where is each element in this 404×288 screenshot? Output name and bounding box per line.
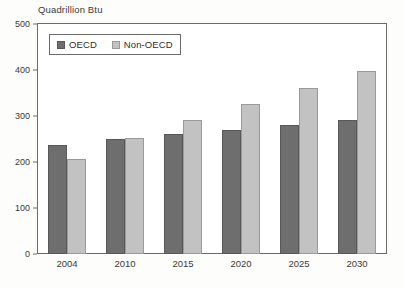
bar-non-oecd-2004 [67,159,86,254]
bar-non-oecd-2030 [357,71,376,254]
bar-oecd-2010 [106,139,125,254]
y-axis-tick-label: 100 [15,203,30,213]
bar-group [164,24,202,254]
y-axis-tick-label: 300 [15,111,30,121]
legend-label: OECD [69,39,97,50]
bars-layer [38,24,386,254]
bar-non-oecd-2010 [125,138,144,254]
bar-chart-figure: Quadrillion Btu 0100200300400500 2004201… [0,0,404,288]
bar-group [106,24,144,254]
bar-oecd-2030 [338,120,357,254]
x-axis-tick-label: 2020 [230,258,251,269]
x-axis-tick-label: 2025 [288,258,309,269]
bar-oecd-2025 [280,125,299,254]
legend-entry-non-oecd: Non-OECD [112,39,173,50]
bar-group [222,24,260,254]
x-axis-tick-label: 2010 [114,258,135,269]
y-axis: 0100200300400500 [0,23,37,254]
bar-oecd-2004 [48,145,67,254]
bar-group [338,24,376,254]
bar-non-oecd-2015 [183,120,202,254]
x-axis: 200420102015202020252030 [38,258,386,274]
bar-group [48,24,86,254]
y-axis-tick-label: 200 [15,157,30,167]
legend-entry-oecd: OECD [57,39,97,50]
y-axis-tick-label: 0 [25,249,30,259]
y-axis-tick-label: 500 [15,19,30,29]
bar-non-oecd-2020 [241,104,260,254]
chart-legend: OECDNon-OECD [49,34,181,55]
bar-group [280,24,318,254]
x-axis-tick-label: 2004 [56,258,77,269]
legend-label: Non-OECD [124,39,173,50]
bar-non-oecd-2025 [299,88,318,254]
legend-swatch-icon [57,41,65,49]
x-axis-tick-label: 2030 [346,258,367,269]
chart-title: Quadrillion Btu [38,4,103,15]
legend-swatch-icon [112,41,120,49]
y-axis-tick-label: 400 [15,65,30,75]
x-axis-tick-label: 2015 [172,258,193,269]
bar-oecd-2015 [164,134,183,254]
bar-oecd-2020 [222,130,241,254]
